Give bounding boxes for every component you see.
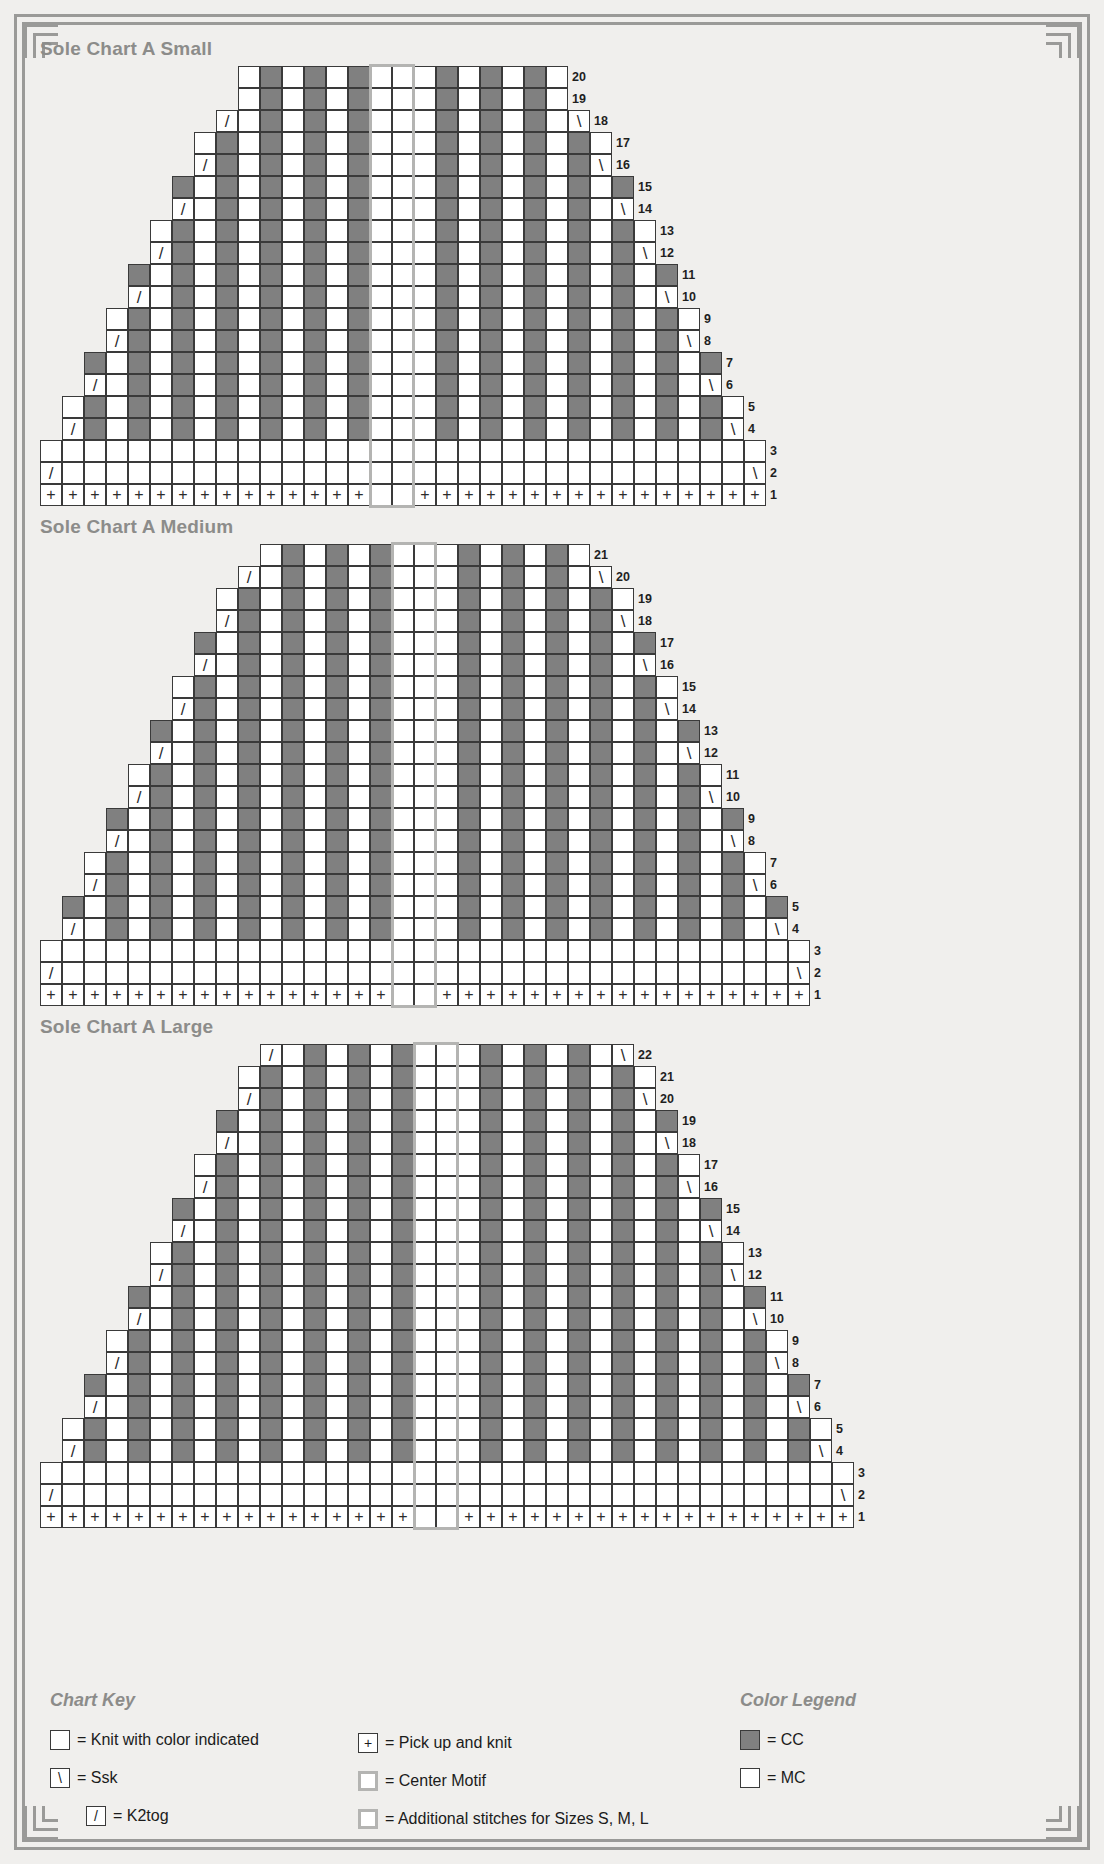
stitch-cell-mc [260,1484,282,1506]
stitch-cell-mc [480,764,502,786]
stitch-cell-mc [612,786,634,808]
stitch-cell-empty [744,110,766,132]
stitch-cell-empty [194,66,216,88]
ssk-icon: \ [613,199,633,219]
stitch-cell-mc [216,896,238,918]
stitch-cell-empty [678,132,700,154]
chart-key-column-two: + = Pick up and knit = Center Motif = Ad… [358,1724,778,1838]
stitch-cell-cc [656,374,678,396]
stitch-cell-mc [194,418,216,440]
stitch-cell-mc [150,1352,172,1374]
stitch-cell-empty [40,110,62,132]
stitch-cell-mc [568,940,590,962]
stitch-cell-empty [40,418,62,440]
stitch-cell-cc [524,132,546,154]
stitch-cell-empty [40,764,62,786]
stitch-cell-mc [326,88,348,110]
stitch-cell-mc [348,676,370,698]
stitch-cell-mc [260,462,282,484]
stitch-cell-mc [194,1484,216,1506]
stitch-cell-empty [832,1308,854,1330]
pick-up-and-knit-icon: + [107,985,127,1005]
stitch-cell-cc [502,720,524,742]
stitch-cell-empty [106,1242,128,1264]
stitch-cell-cc [612,308,634,330]
pickup-glyph: + [359,1734,377,1752]
stitch-cell-mc [502,220,524,242]
stitch-cell-mc [524,544,546,566]
stitch-cell-cc [502,742,524,764]
stitch-cell-cc [392,1264,414,1286]
stitch-cell-empty [678,654,700,676]
stitch-cell-mc [172,808,194,830]
stitch-cell-cc [546,588,568,610]
stitch-cell-mc [238,1132,260,1154]
stitch-cell-cc [238,764,260,786]
stitch-cell-center-motif [392,676,414,698]
stitch-cell-empty [634,132,656,154]
stitch-cell-mc [370,1440,392,1462]
stitch-cell-empty [40,1154,62,1176]
stitch-cell-cc [524,264,546,286]
stitch-cell-empty [832,1198,854,1220]
stitch-cell-mc [436,786,458,808]
stitch-cell-mc [238,1484,260,1506]
stitch-cell-mc [502,1242,524,1264]
stitch-cell-empty [128,1044,150,1066]
k2tog-icon: / [107,331,127,351]
stitch-cell-mc: / [194,154,216,176]
stitch-cell-mc [700,764,722,786]
stitch-cell-mc [480,566,502,588]
stitch-cell-cc [238,830,260,852]
stitch-cell-center-motif [392,176,414,198]
stitch-cell-mc [40,940,62,962]
stitch-cell-mc [348,830,370,852]
stitch-cell-empty [84,286,106,308]
stitch-cell-mc [480,1462,502,1484]
chart-row: /\4 [40,918,1064,940]
row-number-label: 12 [660,242,674,264]
stitch-cell-pickup: + [458,1506,480,1528]
stitch-cell-cc: \ [568,110,590,132]
stitch-cell-cc [348,110,370,132]
stitch-cell-empty [766,786,788,808]
stitch-cell-mc [216,830,238,852]
ssk-icon: \ [745,463,765,483]
stitch-cell-pickup: + [502,484,524,506]
row-number-label: 8 [704,330,711,352]
stitch-cell-cc [304,286,326,308]
stitch-cell-cc [480,374,502,396]
stitch-cell-mc [172,786,194,808]
stitch-cell-pickup: + [458,484,480,506]
stitch-cell-mc [326,1330,348,1352]
pick-up-and-knit-icon: + [217,985,237,1005]
stitch-cell-mc [436,830,458,852]
stitch-cell-mc [568,720,590,742]
stitch-cell-mc [260,588,282,610]
key-item-additional-stitches: = Additional stitches for Sizes S, M, L [358,1800,778,1838]
chart-row: /\20 [40,566,1064,588]
stitch-cell-mc [502,1044,524,1066]
stitch-cell-empty [106,544,128,566]
stitch-cell-empty [722,588,744,610]
stitch-cell-center-motif [392,242,414,264]
stitch-cell-mc [194,396,216,418]
ssk-icon: \ [701,787,721,807]
stitch-cell-empty [216,1088,238,1110]
stitch-cell-mc [304,544,326,566]
stitch-cell-center-motif [392,264,414,286]
stitch-cell-cc [172,1330,194,1352]
stitch-cell-mc [458,1418,480,1440]
stitch-cell-empty [722,544,744,566]
stitch-cell-cc [304,1264,326,1286]
pick-up-and-knit-icon: + [701,985,721,1005]
stitch-cell-empty [40,176,62,198]
stitch-cell-mc [194,330,216,352]
stitch-cell-cc [304,374,326,396]
row-number-label: 20 [616,566,630,588]
stitch-cell-empty [62,352,84,374]
stitch-cell-mc [590,1330,612,1352]
stitch-cell-mc [106,1484,128,1506]
stitch-cell-center-motif [370,352,392,374]
stitch-cell-mc [590,962,612,984]
